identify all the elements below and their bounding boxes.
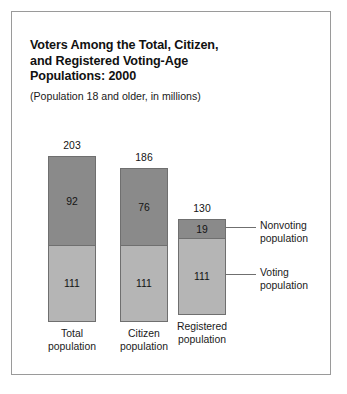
callout-nonvoting-line-1: Nonvoting — [260, 220, 308, 233]
plot-area: 203 92 111 Total population 186 76 111 C… — [12, 12, 332, 376]
category-label-registered-line-2: population — [164, 334, 240, 347]
category-label-total-line-2: population — [34, 341, 110, 354]
callout-nonvoting-population: Nonvoting population — [260, 220, 308, 245]
callout-voting-line-2: population — [260, 280, 308, 293]
bar-segment-nonvoting-citizen: 76 — [120, 168, 168, 246]
bar-segment-voting-total: 111 — [48, 245, 96, 322]
callout-voting-line-1: Voting — [260, 267, 308, 280]
leader-line-voting — [226, 274, 256, 275]
bar-group-total: 203 92 111 Total population — [48, 140, 96, 370]
bar-segment-nonvoting-total: 92 — [48, 156, 96, 246]
bar-group-citizen: 186 76 111 Citizen population — [120, 152, 168, 370]
bar-group-registered: 130 19 111 Registered population — [178, 203, 226, 370]
leader-line-nonvoting — [226, 227, 256, 228]
bar-total-value-citizen: 186 — [120, 152, 168, 163]
bar-segment-voting-registered: 111 — [178, 238, 226, 315]
bar-total-value-registered: 130 — [178, 203, 226, 214]
callout-voting-population: Voting population — [260, 267, 308, 292]
category-label-registered-line-1: Registered — [164, 321, 240, 334]
callout-nonvoting-line-2: population — [260, 233, 308, 246]
bar-total-value-total: 203 — [48, 140, 96, 151]
bar-segment-nonvoting-registered: 19 — [178, 219, 226, 239]
category-label-total: Total population — [34, 328, 110, 353]
category-label-registered: Registered population — [164, 321, 240, 346]
chart-frame: Voters Among the Total, Citizen, and Reg… — [11, 11, 331, 375]
bar-segment-voting-citizen: 111 — [120, 245, 168, 322]
category-label-total-line-1: Total — [34, 328, 110, 341]
